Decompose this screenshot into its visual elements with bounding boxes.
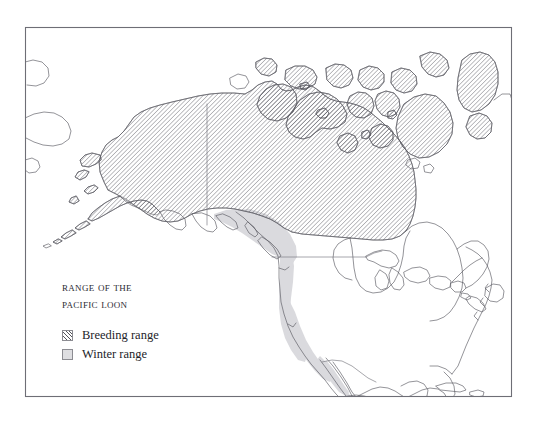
winter-range-swatch-icon — [62, 349, 73, 360]
legend-item-breeding: Breeding range — [62, 327, 252, 344]
legend-title-line-2: Pacific Loon — [62, 296, 252, 313]
legend-items: Breeding range Winter range — [62, 327, 252, 363]
legend-label-breeding: Breeding range — [82, 329, 159, 342]
legend-label-winter: Winter range — [82, 348, 147, 361]
map-legend: Range of the Pacific Loon Breeding range… — [62, 279, 252, 365]
legend-item-winter: Winter range — [62, 346, 252, 363]
legend-title-line-1: Range of the — [62, 279, 252, 296]
range-map-figure: Range of the Pacific Loon Breeding range… — [0, 0, 535, 424]
breeding-range-swatch-icon — [62, 330, 73, 341]
